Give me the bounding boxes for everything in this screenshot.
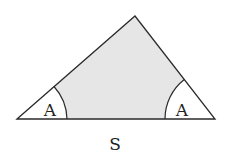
triangle-diagram: A A S (0, 0, 226, 159)
base-side-label: S (109, 134, 121, 154)
left-angle-label: A (43, 100, 57, 120)
right-angle-label: A (175, 100, 189, 120)
